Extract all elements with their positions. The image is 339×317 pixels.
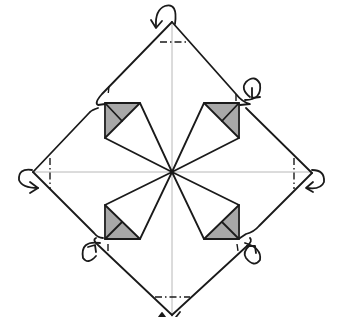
- outline-right-lower-edge: [240, 173, 312, 238]
- outline-upper-right-lower-edge: [246, 108, 312, 173]
- origami-diagram: [0, 0, 339, 317]
- outline-lower-right-lower-edge: [172, 238, 251, 315]
- outline-lower-left-lower-edge: [94, 238, 172, 315]
- kite-lower-right: [172, 172, 239, 239]
- kite-upper-left: [105, 103, 172, 172]
- lower-right-fold-behind-arrow: [245, 243, 261, 264]
- outline-left-lower-edge: [33, 172, 103, 238]
- right-fold-behind-arrow: [306, 170, 324, 192]
- kite-upper-right: [172, 103, 239, 172]
- outline-top-right-edge: [172, 22, 250, 105]
- upper-right-fold-behind-arrow: [244, 78, 260, 100]
- kite-lower-left: [105, 172, 172, 239]
- ul-mountain-tick: [108, 86, 109, 96]
- outline-upper-left-lower-edge: [33, 108, 98, 172]
- lr-mountain-tick: [237, 244, 238, 251]
